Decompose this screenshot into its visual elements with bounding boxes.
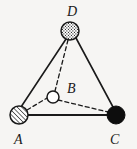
vertex-node-b [47,91,59,103]
vertex-label-d: D [66,4,77,19]
vertex-node-d [61,22,79,40]
vertex-label-c: C [110,132,120,147]
vertex-label-b: B [67,81,76,96]
vertex-node-a [10,106,28,124]
vertex-node-c [107,106,125,124]
geometry-figure-tetrahedron: DBAC [0,0,137,149]
vertex-label-a: A [13,132,23,147]
tetrahedron-diagram-canvas: DBAC [0,0,137,149]
